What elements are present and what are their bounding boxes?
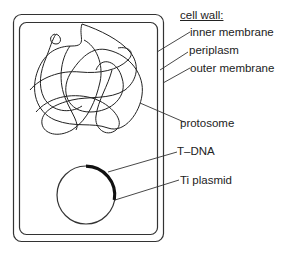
label-inner-membrane: inner membrane bbox=[190, 26, 274, 39]
label-t-dna: T–DNA bbox=[177, 145, 215, 158]
inner-membrane-shape bbox=[20, 23, 158, 235]
label-cell-wall: cell wall: bbox=[180, 9, 223, 22]
label-periplasm: periplasm bbox=[189, 44, 239, 57]
protosome-tangle bbox=[30, 24, 142, 134]
label-protosome: protosome bbox=[180, 117, 234, 130]
outer-membrane-shape bbox=[14, 15, 164, 242]
label-ti-plasmid: Ti plasmid bbox=[180, 174, 232, 187]
leader-lines bbox=[108, 32, 190, 200]
label-outer-membrane: outer membrane bbox=[190, 62, 274, 75]
